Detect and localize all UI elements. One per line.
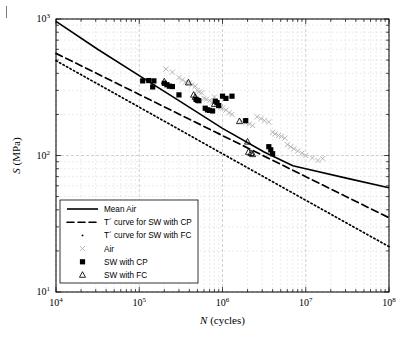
data-point-sw-cp: [150, 84, 155, 89]
data-point-air: [320, 156, 325, 161]
legend-label: T´ curve for SW with CP: [104, 218, 192, 227]
data-point-air: [170, 70, 175, 75]
legend-swatch-t-curve-fc: [82, 234, 84, 236]
legend-swatch-sw-cp: [80, 259, 85, 264]
y-axis-label: S (MPa): [10, 137, 23, 174]
data-point-sw-cp: [270, 151, 275, 156]
y-tick-label: 101: [37, 285, 51, 297]
data-point-sw-cp: [223, 96, 228, 101]
data-point-air: [310, 155, 315, 160]
data-point-sw-cp: [170, 84, 175, 89]
data-point-sw-cp: [146, 78, 151, 83]
data-point-air: [266, 119, 271, 124]
y-tick-label: 103: [37, 12, 51, 24]
sn-curve-chart: 104105106107108101102103N (cycles)S (MPa…: [0, 0, 407, 345]
data-point-sw-cp: [176, 92, 181, 97]
legend-label: Mean Air: [104, 205, 137, 214]
data-point-sw-cp: [151, 78, 156, 83]
x-tick-label: 104: [49, 296, 63, 308]
x-tick-label: 108: [382, 296, 396, 308]
legend-label: SW with FC: [104, 271, 147, 280]
x-axis-label: N (cycles): [199, 314, 245, 327]
data-point-air: [315, 158, 320, 163]
data-point-sw-cp: [229, 94, 234, 99]
data-point-sw-cp: [210, 108, 215, 113]
data-point-sw-cp: [196, 98, 201, 103]
x-tick-label: 105: [133, 296, 147, 308]
y-tick-label: 102: [37, 149, 51, 161]
data-point-air: [180, 77, 185, 82]
x-tick-label: 106: [216, 296, 230, 308]
legend-label: Air: [104, 245, 114, 254]
data-point-air: [163, 66, 168, 71]
x-tick-label: 107: [299, 296, 313, 308]
legend-label: SW with CP: [104, 258, 148, 267]
figure-container: 104105106107108101102103N (cycles)S (MPa…: [0, 0, 407, 345]
data-point-sw-cp: [243, 118, 248, 123]
legend-label: T´ curve for SW with FC: [104, 231, 191, 240]
data-point-sw-cp: [140, 78, 145, 83]
